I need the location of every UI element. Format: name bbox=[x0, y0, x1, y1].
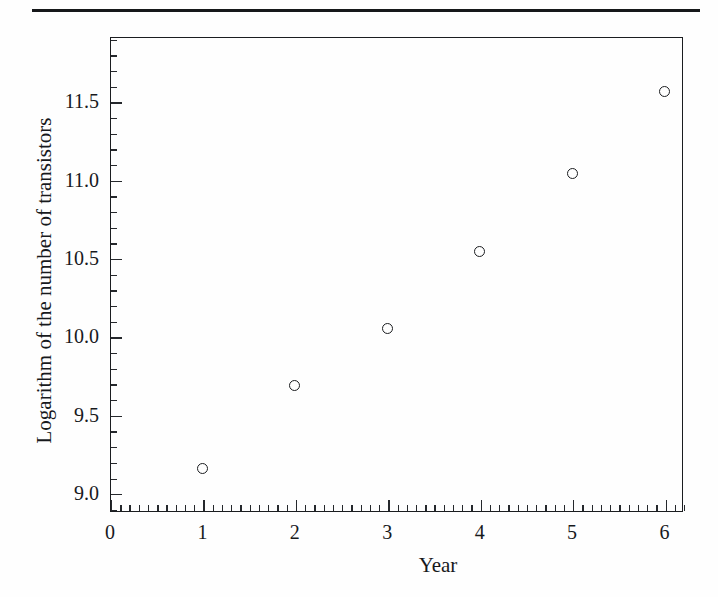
data-point-marker bbox=[474, 246, 485, 257]
page-canvas: 9.09.510.010.511.011.5 0123456 Year Loga… bbox=[0, 0, 718, 597]
data-point-marker bbox=[197, 463, 208, 474]
x-axis-tick-label: 6 bbox=[660, 521, 670, 544]
x-axis-title: Year bbox=[0, 553, 718, 578]
x-axis-tick-labels: 0123456 bbox=[110, 521, 683, 549]
y-axis-title: Logarithm of the number of transistors bbox=[32, 41, 57, 521]
x-axis-title-text: Year bbox=[419, 553, 458, 578]
x-axis-tick-label: 1 bbox=[197, 521, 207, 544]
x-axis-tick-label: 0 bbox=[105, 521, 115, 544]
data-point-marker bbox=[659, 86, 670, 97]
data-points-layer bbox=[110, 37, 683, 512]
x-axis-tick-label: 3 bbox=[382, 521, 392, 544]
x-axis-tick-label: 5 bbox=[567, 521, 577, 544]
x-axis-tick-label: 2 bbox=[290, 521, 300, 544]
scatter-chart-figure: 9.09.510.010.511.011.5 0123456 Year Loga… bbox=[0, 0, 718, 597]
data-point-marker bbox=[567, 168, 578, 179]
data-point-marker bbox=[289, 380, 300, 391]
data-point-marker bbox=[382, 323, 393, 334]
x-axis-tick-label: 4 bbox=[475, 521, 485, 544]
